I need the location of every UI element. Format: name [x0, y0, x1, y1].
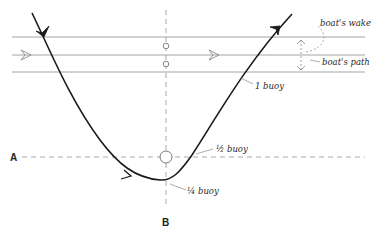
- point-b-label: B: [162, 217, 169, 228]
- one-buoy-leader: [241, 78, 253, 84]
- one-buoy-label: 1 buoy: [255, 81, 284, 91]
- curve-arrow-icon: [121, 170, 131, 179]
- boats-path-label: boat's path: [322, 57, 370, 67]
- path-leader-icon: [310, 60, 320, 62]
- curve-arrow-icon: [36, 26, 49, 37]
- boats-wake-label: boat's wake: [320, 18, 371, 28]
- buoy-marker-small: [163, 43, 169, 49]
- point-a-label: A: [10, 152, 17, 163]
- buoy-turn-diagram: boat's wake boat's path 1 buoy ½ buoy ¼ …: [0, 0, 376, 235]
- half-buoy-label: ½ buoy: [216, 144, 248, 154]
- buoy-marker-large: [160, 151, 172, 163]
- wake-leader-icon: [306, 26, 324, 52]
- quarter-buoy-leader: [170, 184, 186, 190]
- half-buoy-leader: [196, 149, 213, 154]
- buoy-marker-small: [163, 61, 169, 67]
- quarter-buoy-label: ¼ buoy: [187, 186, 219, 196]
